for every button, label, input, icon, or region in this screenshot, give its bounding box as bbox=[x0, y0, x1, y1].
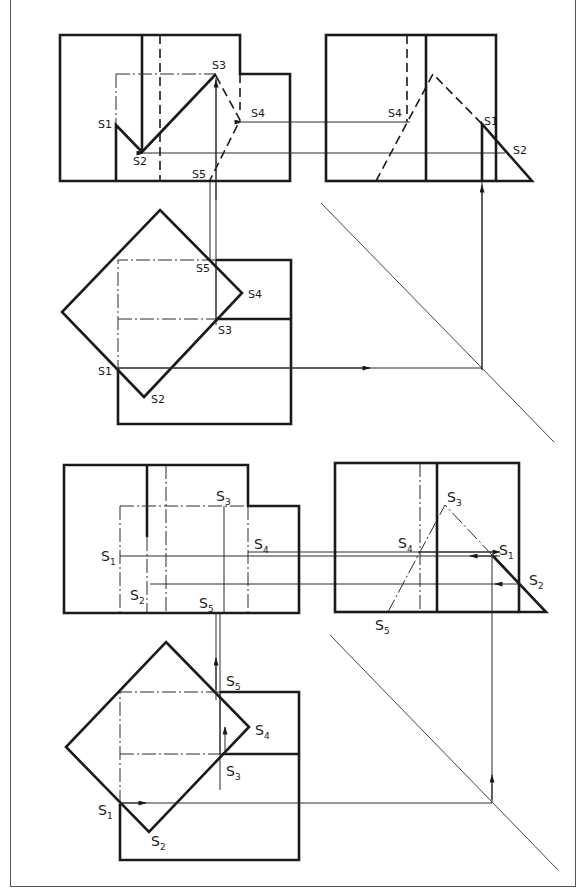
label-s3: S3 bbox=[226, 763, 241, 782]
mitre-line bbox=[321, 203, 554, 442]
label-s5: S5 bbox=[199, 595, 214, 614]
label-s3: S3 bbox=[212, 59, 226, 72]
label-s5: S5 bbox=[226, 673, 241, 692]
label-s4: S4 bbox=[388, 107, 402, 120]
label-s2: S2 bbox=[529, 572, 544, 591]
upper-side-view: S4 S1 S2 bbox=[326, 35, 532, 370]
label-s4: S4 bbox=[398, 535, 413, 554]
projection-drawing: S1 S2 S3 S4 S5 S4 S1 S2 S5 S4 S3 S1 bbox=[0, 0, 587, 893]
label-s1: S1 bbox=[98, 118, 112, 131]
label-s4: S4 bbox=[248, 288, 262, 301]
label-s5: S5 bbox=[192, 168, 206, 181]
label-s2: S2 bbox=[151, 393, 165, 406]
label-s4: S4 bbox=[255, 722, 270, 741]
label-s1: S1 bbox=[98, 802, 113, 821]
label-s5: S5 bbox=[196, 262, 210, 275]
label-s3: S3 bbox=[218, 324, 232, 337]
label-s2: S2 bbox=[513, 144, 527, 157]
label-s2: S2 bbox=[151, 833, 166, 852]
label-s1: S1 bbox=[98, 365, 112, 378]
lower-top-view: S5 S4 S3 S1 S2 bbox=[66, 642, 492, 860]
label-s1: S1 bbox=[499, 542, 514, 561]
upper-top-view: S5 S4 S3 S1 S2 bbox=[62, 210, 482, 424]
label-s1: S1 bbox=[484, 115, 498, 128]
label-s2: S2 bbox=[130, 587, 145, 606]
label-s3: S3 bbox=[216, 488, 231, 507]
lower-front-view: S1 S2 S3 S4 S5 bbox=[64, 465, 497, 790]
label-s1: S1 bbox=[101, 548, 116, 567]
label-s4: S4 bbox=[251, 107, 265, 120]
label-s2: S2 bbox=[133, 155, 147, 168]
mitre-line bbox=[330, 635, 558, 870]
label-s3: S3 bbox=[447, 489, 462, 508]
label-s5: S5 bbox=[375, 617, 390, 636]
